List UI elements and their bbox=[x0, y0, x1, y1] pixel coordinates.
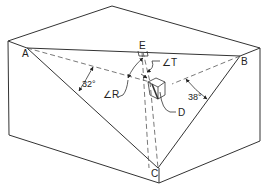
label-angle-t: ∠T bbox=[162, 57, 177, 68]
label-b: B bbox=[241, 56, 248, 67]
label-38: 38° bbox=[188, 92, 202, 102]
label-a: A bbox=[22, 48, 29, 59]
dashed-lines bbox=[27, 48, 240, 168]
label-c: C bbox=[151, 168, 158, 179]
foot-box bbox=[148, 78, 165, 99]
d-leader bbox=[160, 92, 176, 112]
box-outline bbox=[8, 6, 260, 183]
angle-t-leader bbox=[141, 61, 160, 78]
label-d: D bbox=[178, 107, 185, 118]
angle-r-arc bbox=[118, 58, 143, 97]
label-e: E bbox=[139, 40, 146, 51]
label-32: 32° bbox=[82, 79, 96, 89]
block-diagram: A B C D E 32° 38° ∠R ∠T bbox=[0, 0, 265, 191]
label-angle-r: ∠R bbox=[103, 89, 119, 100]
triangle-abc bbox=[27, 48, 240, 168]
